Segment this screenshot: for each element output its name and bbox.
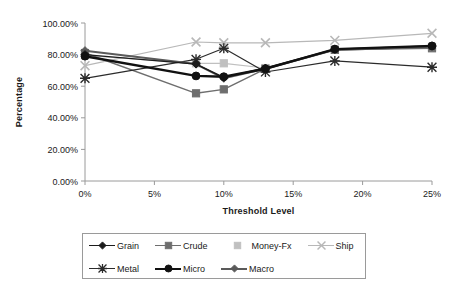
data-point-asterisk bbox=[427, 62, 437, 72]
asterisk-marker-icon bbox=[98, 264, 107, 273]
legend-label: Macro bbox=[249, 264, 276, 274]
legend-item-ship[interactable]: Ship bbox=[308, 240, 356, 251]
legend-label: Grain bbox=[117, 241, 141, 251]
chart-legend: GrainCrudeMoney-FxShip MetalMicroMacro bbox=[82, 233, 366, 279]
x-axis-tick-label: 10% bbox=[215, 189, 233, 199]
legend-item-grain[interactable]: Grain bbox=[89, 240, 141, 251]
data-point-square bbox=[234, 242, 240, 248]
x-marker-icon bbox=[317, 241, 326, 250]
data-point-circle bbox=[81, 52, 89, 60]
circle-marker-icon bbox=[164, 264, 173, 273]
data-point-square bbox=[192, 90, 199, 97]
data-point-asterisk bbox=[330, 56, 340, 66]
data-point-asterisk bbox=[219, 43, 229, 53]
legend-swatch-circle-icon bbox=[155, 263, 181, 274]
legend-label: Money-Fx bbox=[252, 241, 294, 251]
y-axis-tick-label: 60.00% bbox=[47, 82, 78, 92]
y-axis-title: Percentage bbox=[14, 77, 24, 128]
legend-label: Ship bbox=[336, 241, 356, 251]
legend-swatch-x-icon bbox=[308, 240, 334, 251]
series-line bbox=[85, 47, 432, 79]
legend-item-micro[interactable]: Micro bbox=[155, 263, 207, 274]
legend-label: Crude bbox=[183, 241, 210, 251]
legend-swatch-asterisk-icon bbox=[89, 263, 115, 274]
series-line bbox=[85, 48, 432, 78]
legend-label: Metal bbox=[117, 264, 141, 274]
diamond-marker-icon bbox=[230, 264, 239, 273]
data-point-circle bbox=[262, 65, 270, 73]
data-point-asterisk bbox=[98, 264, 107, 273]
legend-swatch-square-icon bbox=[155, 240, 181, 251]
legend-swatch-light-square-icon bbox=[224, 240, 250, 251]
data-point-x bbox=[317, 242, 325, 250]
data-point-circle bbox=[331, 45, 339, 53]
chart-container: 0.00%20.00%40.00%60.00%80.00%100.00%0%5%… bbox=[0, 0, 449, 287]
data-point-diamond bbox=[99, 242, 106, 249]
data-point-circle bbox=[165, 265, 172, 272]
legend-item-metal[interactable]: Metal bbox=[89, 263, 141, 274]
legend-swatch-diamond-icon bbox=[89, 240, 115, 251]
legend-item-macro[interactable]: Macro bbox=[221, 263, 276, 274]
y-axis-tick-label: 40.00% bbox=[47, 113, 78, 123]
legend-swatch-diamond-icon bbox=[221, 263, 247, 274]
y-axis-tick-label: 0.00% bbox=[52, 177, 78, 187]
data-point-circle bbox=[220, 73, 228, 81]
data-point-asterisk bbox=[80, 73, 90, 83]
data-point-square bbox=[220, 86, 227, 93]
y-axis-tick-label: 80.00% bbox=[47, 50, 78, 60]
y-axis-tick-label: 100.00% bbox=[42, 19, 78, 29]
data-point-square bbox=[165, 242, 171, 248]
legend-label: Micro bbox=[183, 264, 207, 274]
series-micro bbox=[81, 42, 436, 81]
x-axis-tick-label: 0% bbox=[78, 189, 91, 199]
y-axis-tick-label: 20.00% bbox=[47, 145, 78, 155]
square-marker-icon bbox=[164, 241, 173, 250]
data-point-circle bbox=[428, 42, 436, 50]
legend-item-money-fx[interactable]: Money-Fx bbox=[224, 240, 294, 251]
x-axis-tick-label: 25% bbox=[423, 189, 441, 199]
x-axis-tick-label: 15% bbox=[284, 189, 302, 199]
legend-row: MetalMicroMacro bbox=[83, 257, 365, 280]
x-axis-tick-label: 5% bbox=[148, 189, 161, 199]
data-point-diamond bbox=[231, 265, 238, 272]
data-point-square bbox=[220, 60, 227, 67]
x-axis-tick-label: 20% bbox=[354, 189, 372, 199]
x-axis-title: Threshold Level bbox=[222, 206, 294, 216]
legend-item-crude[interactable]: Crude bbox=[155, 240, 210, 251]
diamond-marker-icon bbox=[98, 241, 107, 250]
light-square-marker-icon bbox=[233, 241, 242, 250]
data-point-circle bbox=[192, 72, 200, 80]
legend-row: GrainCrudeMoney-FxShip bbox=[83, 234, 365, 257]
